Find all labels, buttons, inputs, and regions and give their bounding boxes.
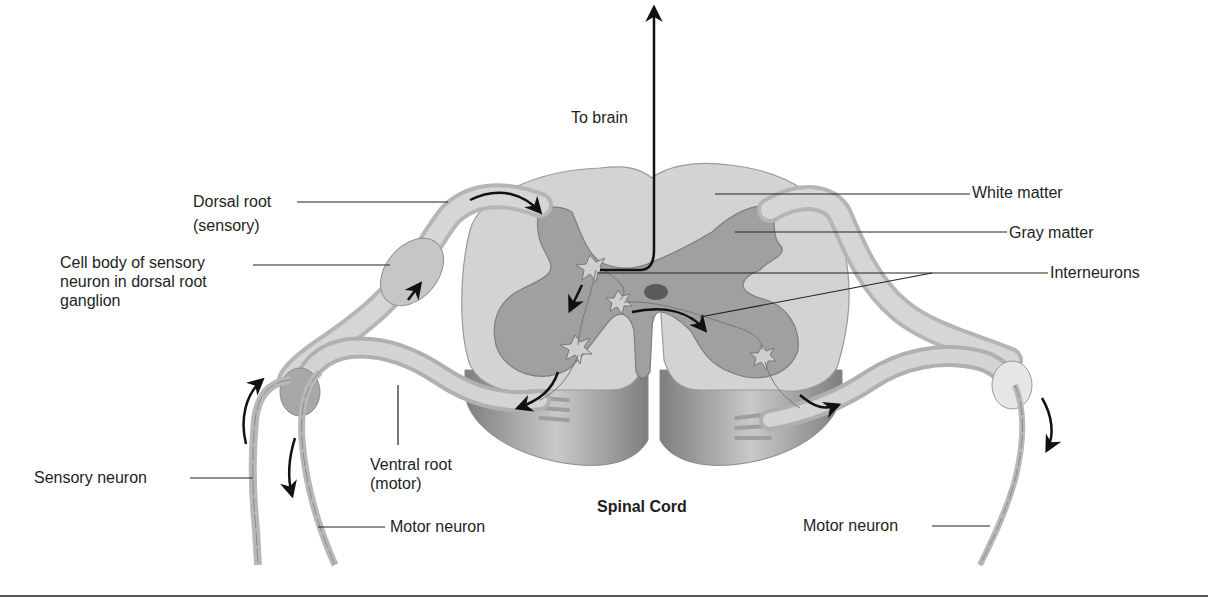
label-spinal-cord: Spinal Cord xyxy=(597,497,687,516)
label-ventral-root-line1: Ventral root xyxy=(370,455,452,474)
label-cell-body-line3: ganglion xyxy=(60,291,207,310)
label-ventral-root: Ventral root (motor) xyxy=(370,455,452,493)
label-gray-matter: Gray matter xyxy=(1009,223,1093,242)
label-motor-neuron-right: Motor neuron xyxy=(803,516,898,535)
label-ventral-root-line2: (motor) xyxy=(370,474,452,493)
label-dorsal-root: Dorsal root (sensory) xyxy=(193,192,271,235)
label-motor-neuron-left: Motor neuron xyxy=(390,517,485,536)
label-cell-body-line1: Cell body of sensory xyxy=(60,253,207,272)
bottom-divider xyxy=(0,595,1208,597)
label-to-brain: To brain xyxy=(571,108,628,127)
label-white-matter: White matter xyxy=(972,183,1063,202)
label-dorsal-root-line2: (sensory) xyxy=(193,216,271,235)
label-dorsal-root-line1: Dorsal root xyxy=(193,192,271,211)
label-cell-body: Cell body of sensory neuron in dorsal ro… xyxy=(60,253,207,310)
label-sensory-neuron: Sensory neuron xyxy=(34,468,147,487)
central-canal xyxy=(644,284,668,300)
label-interneurons: Interneurons xyxy=(1050,263,1140,282)
label-cell-body-line2: neuron in dorsal root xyxy=(60,272,207,291)
